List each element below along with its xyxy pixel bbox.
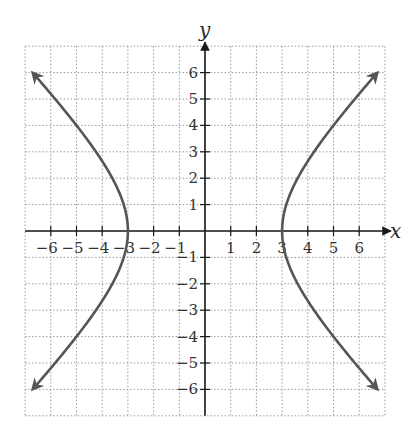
x-tick-label: −2 xyxy=(139,239,161,257)
x-tick-label: 2 xyxy=(252,239,262,257)
y-tick-label: 3 xyxy=(188,143,198,161)
y-tick-label: −2 xyxy=(176,275,198,293)
y-tick-label: 4 xyxy=(188,116,198,134)
x-axis-label: x xyxy=(390,219,401,243)
x-tick-label: −5 xyxy=(61,239,83,257)
y-tick-label: −3 xyxy=(176,301,198,319)
x-tick-label: 4 xyxy=(303,239,313,257)
x-tick-label: 1 xyxy=(226,239,236,257)
y-tick-label: −5 xyxy=(176,354,198,372)
x-tick-label: 6 xyxy=(354,239,364,257)
y-tick-label: 5 xyxy=(188,90,198,108)
y-tick-label: −4 xyxy=(176,328,198,346)
axes xyxy=(25,42,391,416)
y-tick-label: −6 xyxy=(176,380,198,398)
x-tick-label: −6 xyxy=(36,239,58,257)
y-tick-label: −1 xyxy=(176,248,198,266)
y-tick-label: 2 xyxy=(188,169,198,187)
x-tick-label: −4 xyxy=(87,239,109,257)
x-tick-label: 5 xyxy=(329,239,339,257)
y-tick-label: 6 xyxy=(188,64,198,82)
hyperbola-chart: −6−5−4−3−2−1123456−6−5−4−3−2−1123456 x y xyxy=(0,0,417,435)
y-tick-label: 1 xyxy=(188,196,198,214)
y-axis-label: y xyxy=(198,18,211,42)
